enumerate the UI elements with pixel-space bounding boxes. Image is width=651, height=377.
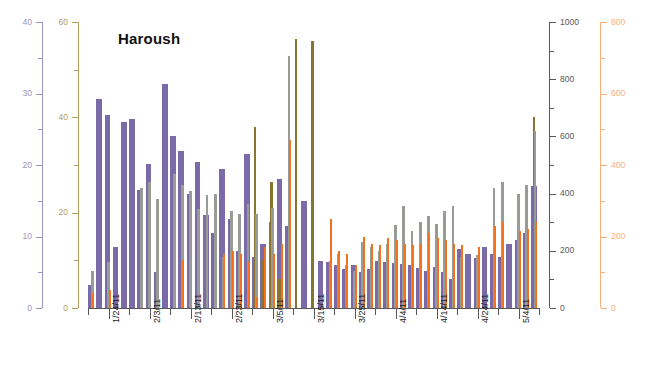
bar-ecoli [379, 245, 381, 308]
axis-tick-label: 40 [23, 18, 32, 27]
y-axis-sulfamethoxazole: 010203040 [42, 22, 43, 308]
bar-ecoli [420, 244, 422, 308]
bar-ecoli [223, 254, 225, 308]
axis-tick [36, 308, 42, 309]
axis-tick-label: 400 [611, 161, 625, 170]
axis-tick [72, 22, 78, 23]
x-axis-tick [129, 308, 130, 315]
axis-tick [38, 201, 42, 202]
bar-total_coliforms [140, 188, 143, 308]
x-axis-tick-label: 1/24/11 [112, 294, 121, 323]
bar-sulfamethoxazole [162, 84, 168, 309]
x-axis-tick [109, 308, 110, 319]
axis-tick [74, 70, 78, 71]
axis-tick [550, 136, 556, 137]
y-axis-ecoli: 0200400600800 [600, 22, 601, 308]
bar-ecoli [182, 260, 184, 308]
bar-ecoli [502, 222, 504, 308]
axis-line [78, 22, 79, 308]
bar-ecoli [289, 140, 291, 308]
bar-sulfamethoxazole [121, 122, 127, 308]
axis-tick [550, 22, 556, 23]
bar-caffeine [311, 41, 313, 308]
axis-tick [36, 165, 42, 166]
bar-ecoli [519, 231, 521, 308]
x-axis-tick [457, 308, 458, 315]
bar-ecoli [461, 245, 463, 308]
bar-total_coliforms [156, 199, 159, 308]
bar-total_coliforms [173, 174, 176, 308]
x-axis-tick [170, 308, 171, 315]
axis-tick-label: 0 [611, 304, 616, 313]
bar-ecoli [346, 254, 348, 308]
axis-tick [36, 237, 42, 238]
axis-tick-label: 400 [560, 189, 574, 198]
x-axis-tick [150, 308, 151, 319]
axis-tick-label: 800 [560, 75, 574, 84]
axis-tick-label: 30 [23, 89, 32, 98]
bar-ecoli [535, 222, 537, 308]
axis-tick-label: 600 [560, 132, 574, 141]
x-axis-tick [478, 308, 479, 319]
axis-tick [38, 58, 42, 59]
bar-ecoli [371, 244, 373, 308]
axis-tick-label: 10 [23, 232, 32, 241]
axis-tick [601, 129, 605, 130]
axis-tick-label: 0 [560, 304, 565, 313]
x-axis-tick [88, 308, 89, 315]
x-axis-tick-label: 3/15/11 [317, 294, 326, 323]
axis-tick [36, 22, 42, 23]
axis-tick-label: 20 [59, 208, 68, 217]
bar-ecoli [494, 226, 496, 308]
bar-ecoli [387, 238, 389, 308]
axis-tick [601, 237, 607, 238]
axis-tick [72, 117, 78, 118]
bar-total_coliforms [189, 191, 192, 308]
bar-sulfamethoxazole [129, 119, 135, 308]
x-axis-tick-label: 3/5/11 [276, 299, 285, 323]
axis-tick [38, 129, 42, 130]
axis-tick [550, 279, 554, 280]
axis-tick [550, 51, 554, 52]
axis-tick [72, 213, 78, 214]
x-axis-tick [293, 308, 294, 315]
axis-tick [72, 308, 78, 309]
bar-sulfamethoxazole [301, 201, 307, 308]
bar-ecoli [248, 262, 250, 308]
x-axis-tick [375, 308, 376, 315]
plot-area [88, 22, 539, 308]
x-axis-tick-label: 3/25/11 [358, 294, 367, 323]
x-axis-tick-label: 4/4/11 [399, 299, 408, 323]
x-axis-tick [273, 308, 274, 319]
x-axis-tick [498, 308, 499, 315]
bar-ecoli [412, 245, 414, 308]
x-axis-tick [191, 308, 192, 319]
x-axis: 1/24/112/3/112/13/112/23/113/5/113/15/11… [88, 308, 539, 377]
axis-tick [74, 260, 78, 261]
axis-tick [601, 201, 605, 202]
x-axis-tick [539, 308, 540, 315]
x-axis-tick [437, 308, 438, 319]
axis-tick-label: 20 [23, 161, 32, 170]
x-axis-tick [232, 308, 233, 319]
axis-tick [550, 222, 554, 223]
axis-tick [601, 308, 607, 309]
bar-ecoli [527, 229, 529, 308]
bar-total_coliforms [255, 214, 258, 308]
bar-ecoli [453, 244, 455, 308]
axis-tick-label: 60 [59, 18, 68, 27]
axis-tick [550, 194, 556, 195]
bar-total_coliforms [148, 182, 151, 308]
bar-sulfamethoxazole [465, 254, 471, 308]
bar-sulfamethoxazole [96, 99, 102, 308]
x-axis-tick [314, 308, 315, 319]
bar-ecoli [256, 297, 258, 308]
axis-tick-label: 40 [59, 113, 68, 122]
bar-ecoli [92, 293, 94, 308]
x-axis-tick-label: 2/13/11 [194, 294, 203, 323]
axis-tick [601, 22, 607, 23]
axis-tick-label: 0 [27, 304, 32, 313]
axis-tick [550, 108, 554, 109]
bar-ecoli [428, 233, 430, 308]
axis-tick [601, 58, 605, 59]
